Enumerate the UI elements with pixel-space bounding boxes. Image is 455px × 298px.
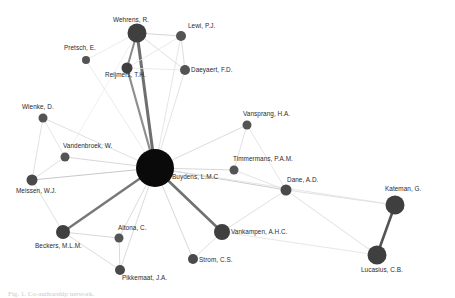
graph-node-label: Strom, C.S. (199, 256, 233, 263)
graph-node-label: Meissen, W.J. (16, 187, 56, 194)
graph-node[interactable] (56, 225, 70, 239)
graph-node-label: Lucasius, C.B. (361, 266, 403, 273)
graph-node[interactable] (230, 166, 239, 175)
graph-node[interactable] (82, 56, 90, 64)
graph-node[interactable] (188, 254, 198, 264)
graph-node-label: Pikkemaat, J.A. (122, 274, 167, 281)
graph-node-label: Vansprang, H.A. (243, 110, 290, 117)
graph-node-label: Reijmers, T.H. (105, 71, 146, 78)
graph-node[interactable] (136, 149, 174, 187)
graph-edge (222, 190, 286, 232)
graph-node-label: Buydens, L.M.C (172, 173, 218, 180)
graph-edge (234, 125, 247, 170)
graph-node[interactable] (115, 234, 124, 243)
graph-node-label: Vandenbroek, W. (63, 142, 112, 149)
graph-node-label: Altona, C. (118, 224, 147, 231)
graph-node[interactable] (180, 65, 190, 75)
figure-caption: Fig. 1. Co-authorship network. (8, 290, 94, 298)
graph-edge (65, 33, 137, 157)
graph-node-label: Beckers, M.L.M. (35, 242, 82, 249)
graph-node-label: Vankampen, A.H.C. (231, 228, 288, 235)
graph-node[interactable] (386, 196, 405, 215)
graph-node-label: Timmermans, P.A.M. (233, 155, 293, 162)
graph-node[interactable] (368, 246, 387, 265)
graph-node[interactable] (128, 24, 147, 43)
graph-node[interactable] (27, 175, 38, 186)
graph-node[interactable] (243, 121, 252, 130)
graph-node-label: Wienke, D. (22, 103, 54, 110)
network-graph-figure: Wehrens, R.Pretsch, E.Lewi, P.J.Reijmers… (0, 0, 455, 298)
node-layer (27, 24, 405, 276)
graph-node-label: Pretsch, E. (64, 44, 96, 51)
graph-node[interactable] (61, 153, 70, 162)
graph-edge (127, 68, 185, 70)
graph-node[interactable] (39, 114, 48, 123)
graph-node-label: Daeyaert, F.D. (191, 66, 233, 73)
graph-node-label: Wehrens, R. (113, 16, 149, 23)
graph-edge (32, 157, 65, 180)
graph-node-label: Kateman, G. (385, 185, 421, 192)
graph-edge (32, 118, 43, 180)
graph-edge (63, 232, 120, 270)
graph-node-label: Dane, A.D. (287, 176, 318, 183)
graph-node[interactable] (176, 31, 186, 41)
graph-edge (155, 36, 181, 168)
graph-edge (222, 232, 377, 255)
graph-node[interactable] (281, 185, 292, 196)
graph-node-label: Lewi, P.J. (188, 22, 215, 29)
graph-edge (181, 36, 185, 70)
graph-node[interactable] (214, 224, 230, 240)
graph-edge (43, 118, 65, 157)
